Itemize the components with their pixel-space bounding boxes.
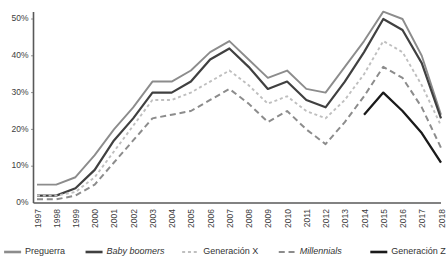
legend-label: Baby boomers bbox=[107, 246, 166, 256]
y-axis-tick-labels: 0%10%20%30%40%50% bbox=[11, 13, 28, 207]
y-tick-label: 40% bbox=[11, 50, 28, 60]
x-tick-label: 1999 bbox=[71, 209, 81, 228]
y-tick-label: 20% bbox=[11, 124, 28, 134]
x-tick-label: 2000 bbox=[90, 209, 100, 228]
x-tick-label: 2007 bbox=[225, 209, 235, 228]
legend-label: Millennials bbox=[300, 246, 343, 256]
x-tick-label: 1998 bbox=[52, 209, 62, 228]
line-chart: 0%10%20%30%40%50% 1997199819992000200120… bbox=[0, 0, 446, 272]
legend-label: Preguerra bbox=[25, 246, 65, 256]
x-tick-label: 2004 bbox=[167, 209, 177, 228]
series-line bbox=[364, 93, 441, 163]
legend-label: Generación Z bbox=[391, 246, 446, 256]
y-tick-label: 30% bbox=[11, 87, 28, 97]
x-tick-label: 2016 bbox=[398, 209, 408, 228]
x-tick-label: 2002 bbox=[129, 209, 139, 228]
x-tick-label: 2005 bbox=[186, 209, 196, 228]
x-tick-label: 1997 bbox=[33, 209, 43, 228]
x-tick-label: 2014 bbox=[360, 209, 370, 228]
series-line bbox=[37, 19, 441, 196]
x-tick-label: 2006 bbox=[206, 209, 216, 228]
series-lines bbox=[37, 12, 441, 200]
series-line bbox=[37, 67, 441, 199]
x-tick-label: 2008 bbox=[244, 209, 254, 228]
chart-legend: PreguerraBaby boomersGeneración XMillenn… bbox=[4, 246, 446, 256]
x-tick-label: 2001 bbox=[109, 209, 119, 228]
x-tick-label: 2003 bbox=[148, 209, 158, 228]
chart-canvas: 0%10%20%30%40%50% 1997199819992000200120… bbox=[0, 0, 446, 272]
x-tick-label: 2015 bbox=[379, 209, 389, 228]
y-tick-label: 50% bbox=[11, 13, 28, 23]
y-tick-label: 10% bbox=[11, 160, 28, 170]
x-axis-tick-labels: 1997199819992000200120022003200420052006… bbox=[33, 209, 446, 228]
x-tick-label: 2011 bbox=[302, 209, 312, 228]
series-line bbox=[37, 41, 441, 196]
x-tick-label: 2018 bbox=[437, 209, 446, 228]
x-tick-label: 2017 bbox=[417, 209, 427, 228]
x-tick-label: 2012 bbox=[321, 209, 331, 228]
series-line bbox=[37, 12, 441, 185]
y-tick-label: 0% bbox=[16, 197, 29, 207]
x-tick-label: 2009 bbox=[263, 209, 273, 228]
legend-label: Generación X bbox=[203, 246, 258, 256]
x-tick-label: 2013 bbox=[340, 209, 350, 228]
x-tick-label: 2010 bbox=[283, 209, 293, 228]
